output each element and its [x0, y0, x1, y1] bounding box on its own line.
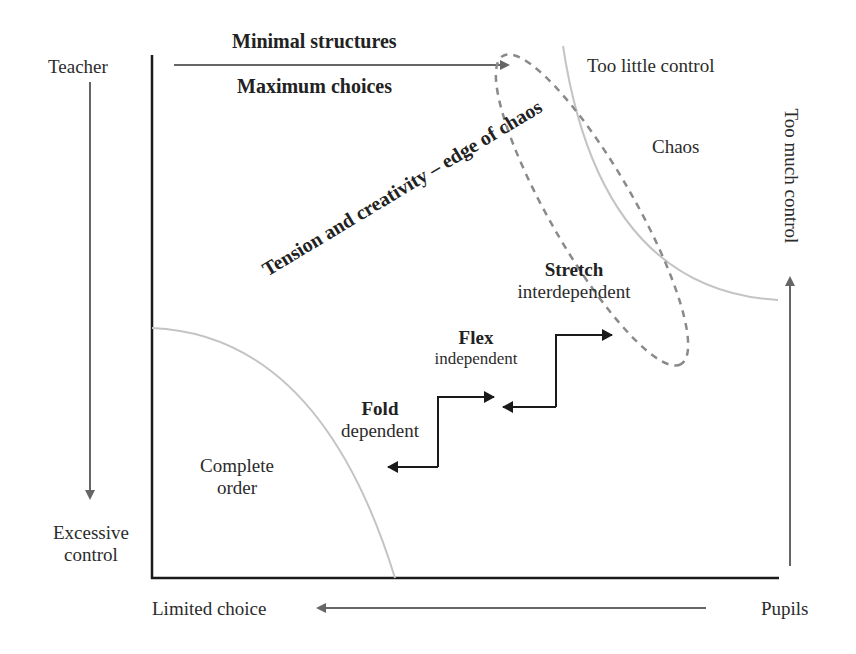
excessive-control-label: Excessive control — [45, 522, 137, 566]
too-little-control-label: Too little control — [587, 55, 714, 77]
stage-stretch-subtitle: interdependent — [494, 281, 654, 303]
excessive-control-line2: control — [45, 544, 137, 566]
excessive-control-line1: Excessive — [45, 522, 137, 544]
complete-order-line2: order — [196, 477, 278, 499]
complete-order-arc — [152, 328, 395, 578]
too-much-control-label: Too much control — [780, 91, 802, 261]
stage-fold-subtitle: dependent — [320, 420, 440, 442]
stage-fold-title: Fold — [320, 398, 440, 420]
stage-flex-title: Flex — [411, 327, 541, 349]
stage-flex: Flex independent — [411, 327, 541, 368]
stage-stretch-title: Stretch — [494, 259, 654, 281]
main-axes — [151, 55, 779, 579]
stage-stretch: Stretch interdependent — [494, 259, 654, 303]
complete-order-line1: Complete — [196, 455, 278, 477]
stage-fold: Fold dependent — [320, 398, 440, 442]
complete-order-label: Complete order — [196, 455, 278, 499]
teacher-label: Teacher — [48, 56, 108, 78]
maximum-choices-label: Maximum choices — [237, 75, 392, 98]
chaos-label: Chaos — [652, 136, 700, 158]
limited-choice-label: Limited choice — [152, 598, 266, 620]
minimal-structures-label: Minimal structures — [232, 30, 397, 53]
stage-flex-subtitle: independent — [411, 349, 541, 369]
pupils-label: Pupils — [761, 598, 809, 620]
